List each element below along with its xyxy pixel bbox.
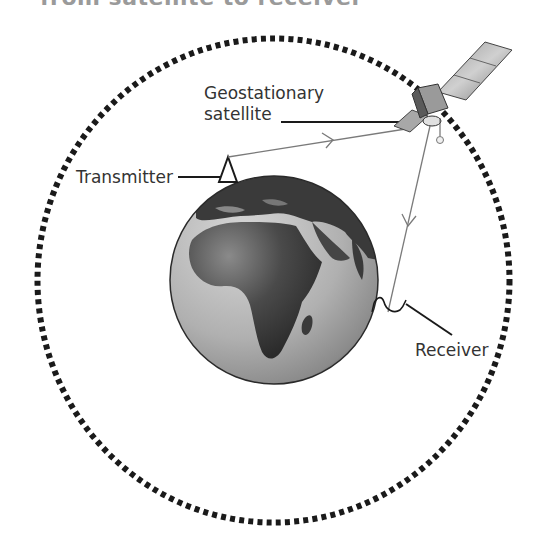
satellite-label: Geostationary satellite — [204, 83, 324, 125]
downlink-signal-arrow — [388, 126, 430, 312]
diagram-canvas — [0, 0, 540, 541]
transmitter-label: Transmitter — [76, 167, 173, 188]
satellite-label-line1: Geostationary — [204, 83, 324, 104]
satellite-label-line2: satellite — [204, 104, 324, 125]
satellite-icon — [394, 42, 512, 144]
uplink-signal-arrow — [228, 128, 412, 157]
receiver-label: Receiver — [415, 340, 489, 361]
transmitter-icon — [219, 157, 237, 182]
satellite-communication-diagram: from satellite to receiver — [0, 0, 540, 541]
receiver-leader-line — [406, 304, 452, 335]
earth-globe — [170, 176, 378, 384]
